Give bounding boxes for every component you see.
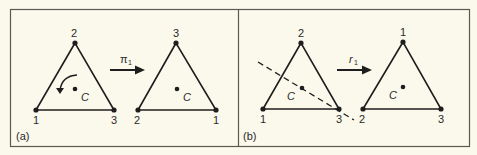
vertex-label-bottom-left: 2 xyxy=(134,114,140,126)
panel-label: (a) xyxy=(16,130,29,142)
vertex-label-top: 2 xyxy=(71,27,77,39)
operation-arrow-b: r 1 xyxy=(337,53,372,75)
vertex-dot xyxy=(400,39,405,44)
center-dot xyxy=(175,87,180,92)
triangle-shape xyxy=(36,43,114,110)
center-label: C xyxy=(81,91,89,103)
operation-label: π xyxy=(120,53,128,65)
vertex-label-bottom-left: 2 xyxy=(359,113,365,125)
vertex-label-bottom-right: 3 xyxy=(336,113,342,125)
triangle-a-after: 3 2 1 C xyxy=(134,27,219,126)
vertex-label-bottom-right: 1 xyxy=(213,114,219,126)
panel-label: (b) xyxy=(243,130,256,142)
triangle-b-before: 2 1 3 C xyxy=(258,27,354,125)
arrow-right-icon xyxy=(362,66,372,75)
vertex-label-top: 2 xyxy=(298,27,304,39)
rotation-arrowhead-icon xyxy=(56,88,64,94)
center-label: C xyxy=(287,90,295,102)
vertex-label-bottom-right: 3 xyxy=(111,114,117,126)
panel-b: 2 1 3 C r 1 1 2 3 C (b) xyxy=(243,26,444,142)
center-dot xyxy=(73,87,78,92)
triangle-shape xyxy=(263,43,339,109)
vertex-dot xyxy=(213,107,218,112)
panel-a: 2 1 3 C π 1 3 2 1 C (a) xyxy=(16,27,219,142)
vertex-dot xyxy=(72,40,77,45)
vertex-label-top: 3 xyxy=(173,27,179,39)
triangle-shape xyxy=(363,42,441,109)
vertex-dot xyxy=(438,106,443,111)
operation-subscript: 1 xyxy=(128,59,132,66)
center-dot xyxy=(300,86,305,91)
vertex-dot xyxy=(33,107,38,112)
vertex-label-bottom-left: 1 xyxy=(33,114,39,126)
vertex-dot xyxy=(111,107,116,112)
vertex-label-bottom-left: 1 xyxy=(260,113,266,125)
triangle-shape xyxy=(138,43,216,110)
vertex-label-top: 1 xyxy=(400,26,406,38)
arrow-right-icon xyxy=(135,66,145,75)
center-label: C xyxy=(183,91,191,103)
vertex-dot xyxy=(135,107,140,112)
vertex-dot xyxy=(298,40,303,45)
vertex-dot xyxy=(336,106,341,111)
center-dot xyxy=(401,85,406,90)
center-label: C xyxy=(389,89,397,101)
vertex-dot xyxy=(260,106,265,111)
vertex-label-bottom-right: 3 xyxy=(438,113,444,125)
operation-subscript: 1 xyxy=(354,59,358,66)
operation-arrow-a: π 1 xyxy=(110,53,145,75)
triangle-a-before: 2 1 3 C xyxy=(33,27,117,126)
vertex-dot xyxy=(360,106,365,111)
vertex-dot xyxy=(173,40,178,45)
symmetry-figure: 2 1 3 C π 1 3 2 1 C (a) xyxy=(0,0,477,155)
triangle-b-after: 1 2 3 C xyxy=(359,26,444,125)
